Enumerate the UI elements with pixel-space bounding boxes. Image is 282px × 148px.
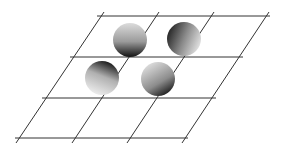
sphere-top-right [167, 22, 201, 56]
sphere-bottom-left [85, 61, 119, 95]
spheres [85, 22, 201, 96]
grid-diagram [0, 0, 282, 148]
sphere-top-left [113, 23, 147, 57]
sphere-bottom-right [141, 62, 175, 96]
diagram-canvas [0, 0, 282, 148]
